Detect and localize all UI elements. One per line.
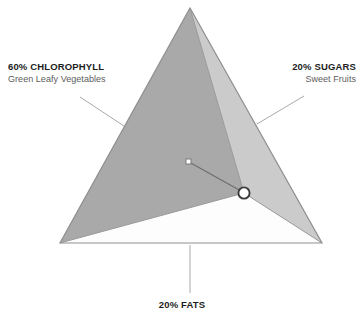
label-sugars: 20% SUGARS Sweet Fruits	[292, 60, 356, 86]
leader-line-chlorophyll	[80, 97, 124, 126]
label-sugars-title: 20% SUGARS	[292, 60, 356, 73]
label-fats-title: 20% FATS	[0, 298, 364, 310]
label-chlorophyll-title: 60% CHLOROPHYLL	[8, 60, 106, 73]
leader-line-sugars	[257, 96, 304, 124]
ternary-diagram: 60% CHLOROPHYLL Green Leafy Vegetables 2…	[0, 0, 364, 310]
triangle-chart-svg	[0, 0, 364, 310]
position-marker-handle[interactable]	[238, 187, 249, 198]
label-sugars-subtitle: Sweet Fruits	[292, 73, 356, 86]
label-chlorophyll-subtitle: Green Leafy Vegetables	[8, 73, 106, 86]
origin-square-handle[interactable]	[186, 159, 191, 164]
label-chlorophyll: 60% CHLOROPHYLL Green Leafy Vegetables	[8, 60, 106, 86]
label-fats: 20% FATS	[0, 298, 364, 310]
